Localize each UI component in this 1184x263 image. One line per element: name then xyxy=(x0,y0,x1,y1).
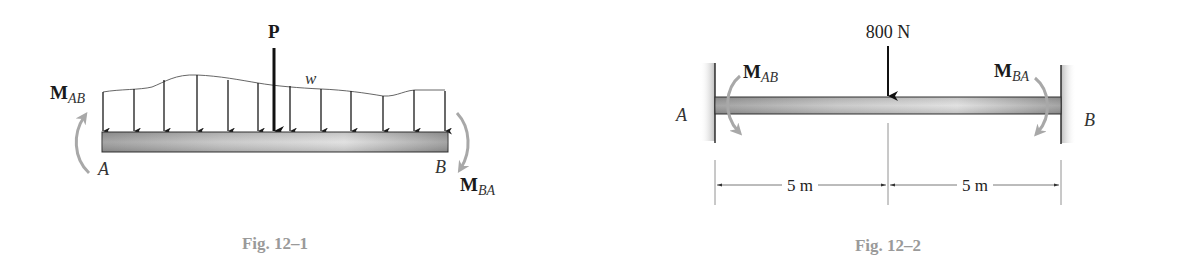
point-load-label: P xyxy=(268,21,280,42)
moment-ba-label: MBA xyxy=(994,60,1029,84)
figure-12-2: 800 N MAB MBA A B 5 m 5 m Fig. 12–2 xyxy=(675,22,1095,255)
beam-ab xyxy=(102,132,448,152)
figure-caption: Fig. 12–1 xyxy=(242,234,308,253)
dimension-right: 5 m xyxy=(890,176,1059,195)
end-a-label: A xyxy=(97,159,110,179)
distributed-load-label: w xyxy=(305,69,317,88)
end-b-label: B xyxy=(435,157,446,177)
moment-ba-arrow xyxy=(457,113,468,168)
beam-ab xyxy=(715,97,1061,114)
dimension-left-label: 5 m xyxy=(787,176,813,195)
fixed-support-b xyxy=(1061,65,1076,144)
point-load-label: 800 N xyxy=(866,22,911,42)
diagram-canvas: P w MAB MBA A B Fig. 12–1 xyxy=(0,0,1184,263)
moment-ab-arrow xyxy=(76,117,89,173)
fixed-support-a xyxy=(700,63,715,143)
figure-12-1: P w MAB MBA A B Fig. 12–1 xyxy=(50,21,495,253)
dimension-lines xyxy=(715,123,1061,205)
end-a-label: A xyxy=(675,105,688,125)
dimension-left: 5 m xyxy=(717,176,886,195)
moment-ba-label: MBA xyxy=(460,174,495,198)
moment-ab-label: MAB xyxy=(743,61,778,85)
moment-ab-label: MAB xyxy=(50,82,85,106)
dimension-right-label: 5 m xyxy=(962,176,988,195)
figure-caption: Fig. 12–2 xyxy=(855,236,921,255)
end-b-label: B xyxy=(1084,110,1095,130)
